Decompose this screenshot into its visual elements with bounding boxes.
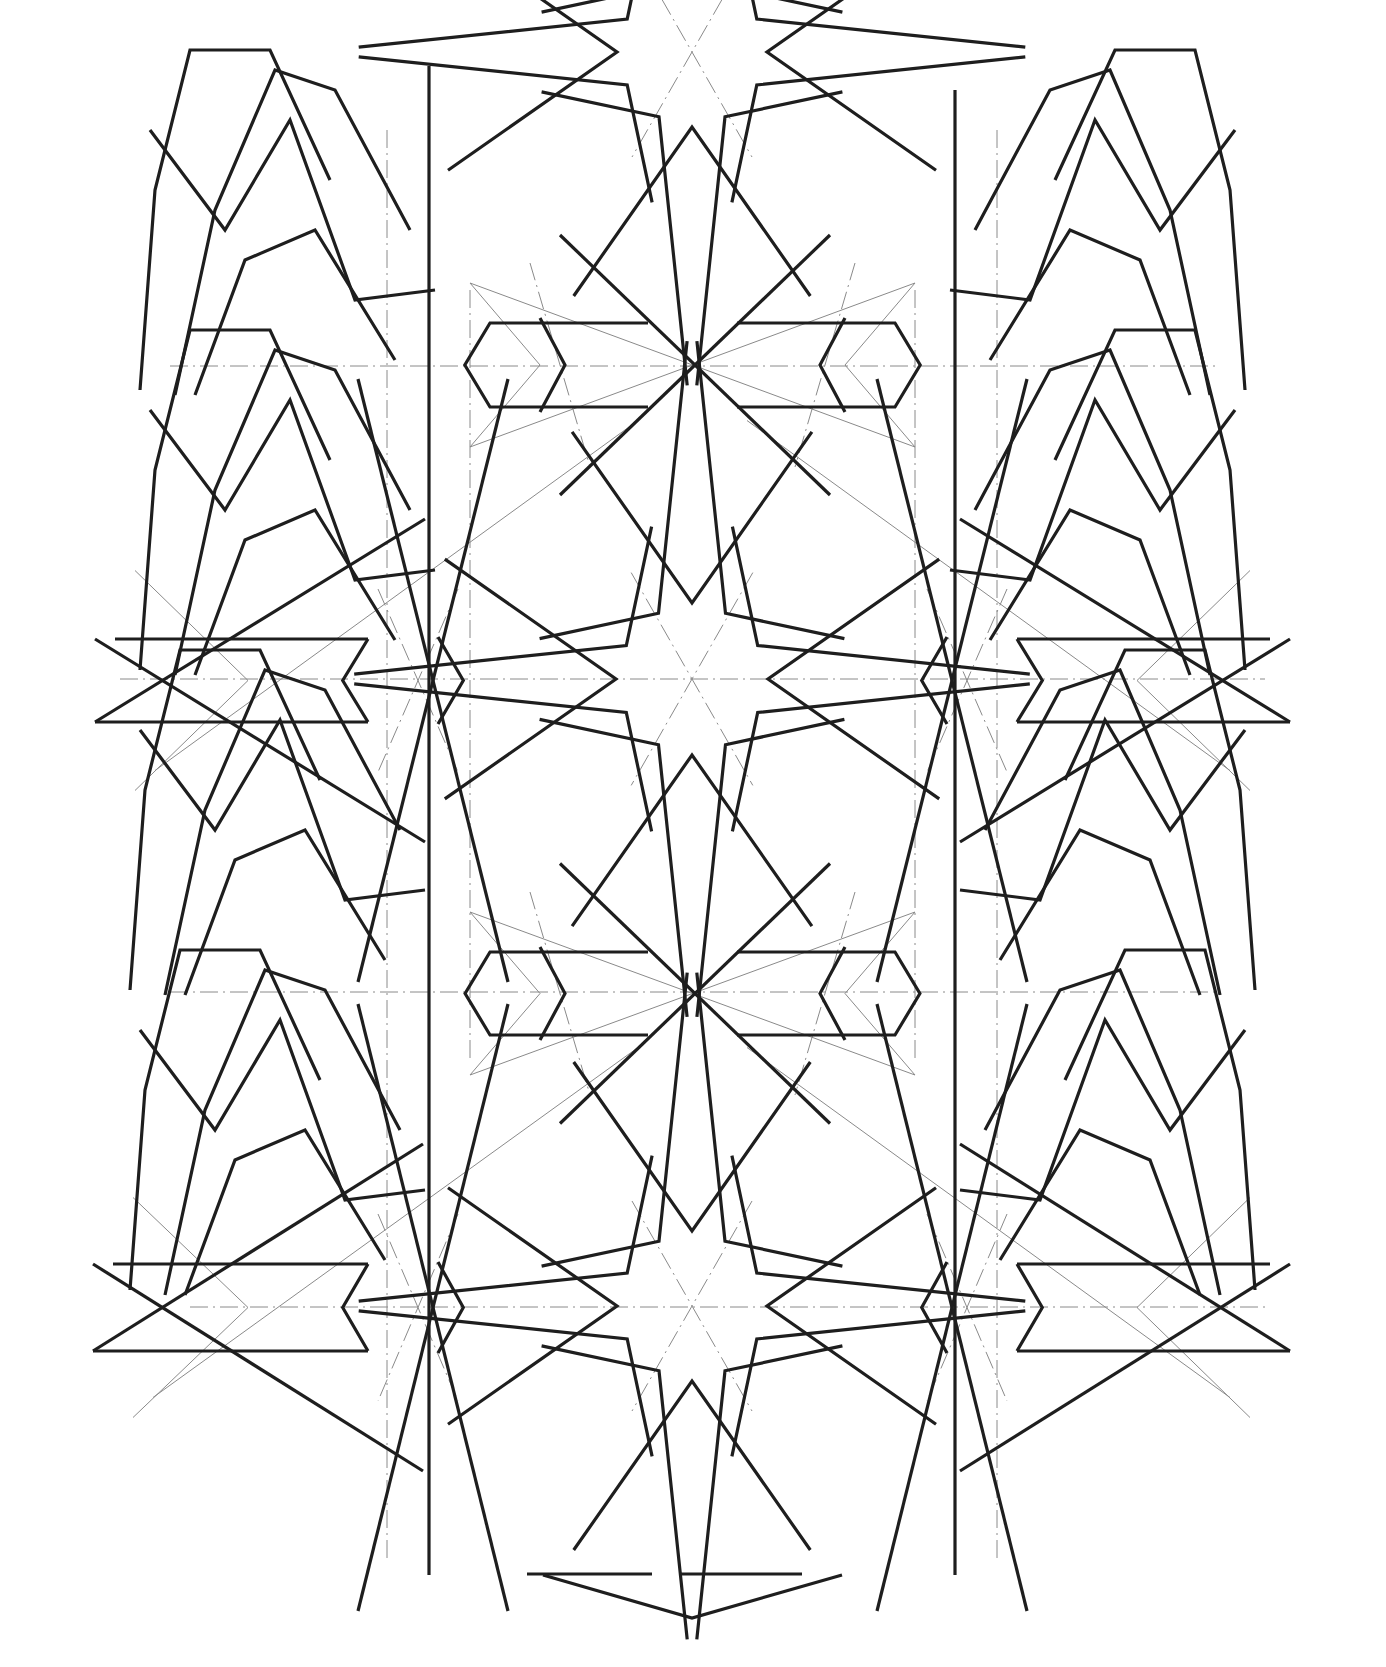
pattern-canvas (0, 0, 1386, 1667)
